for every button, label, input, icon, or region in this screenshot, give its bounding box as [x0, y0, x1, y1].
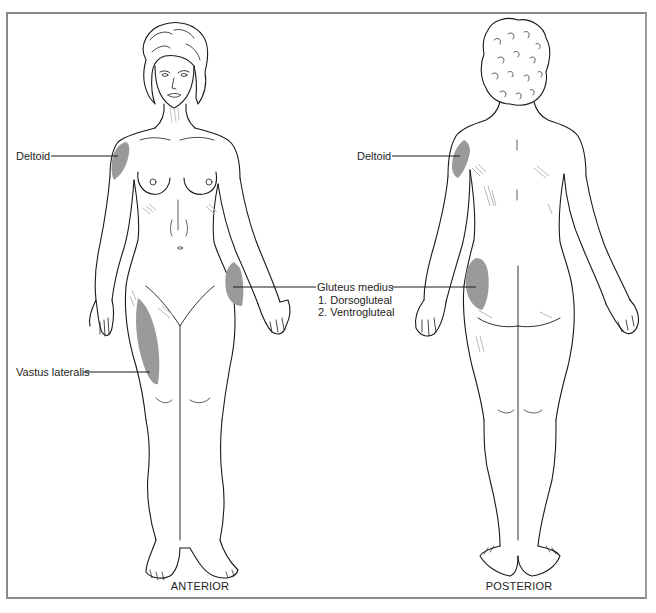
ventrogluteal-label: 2. Ventrogluteal: [318, 306, 394, 319]
anterior-ventrogluteal-site: [225, 262, 243, 306]
anterior-caption: ANTERIOR: [140, 580, 260, 592]
anterior-left-foot: [146, 540, 180, 578]
posterior-figure: [415, 18, 638, 576]
anterior-face: [155, 66, 194, 108]
posterior-dorsogluteal-site: [465, 258, 488, 310]
anterior-deltoid-label: Deltoid: [16, 150, 50, 163]
posterior-deltoid-label: Deltoid: [357, 150, 391, 163]
posterior-shading-hatch: [472, 164, 552, 352]
posterior-hair: [481, 18, 550, 105]
leader-lines: [51, 156, 476, 372]
posterior-caption: POSTERIOR: [459, 580, 579, 592]
anterior-vastus-lateralis-site: [136, 298, 159, 384]
anterior-hair: [143, 23, 208, 105]
anterior-right-foot: [180, 540, 238, 578]
gluteus-medius-label: Gluteus medius: [317, 281, 393, 294]
anterior-shading-hatch: [130, 204, 217, 318]
posterior-left-foot: [480, 546, 518, 576]
posterior-deltoid-site: [452, 140, 470, 178]
vastus-lateralis-label: Vastus lateralis: [16, 366, 90, 379]
anterior-figure: [89, 23, 290, 581]
